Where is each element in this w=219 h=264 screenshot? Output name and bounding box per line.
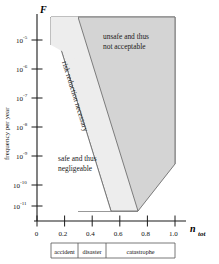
unsafe-zone-label-line1: unsafe and thus [103,32,149,41]
x-tick-label-0-8: 0.8 [141,230,150,238]
unsafe-zone-label-line2: not acceptable [103,42,146,51]
svg-text:10-10: 10-10 [13,180,27,190]
x-tick-label-0-2: 0.2 [59,230,68,238]
y-tick-label-1: 10-5 [16,35,28,45]
category-label-disaster: disaster [83,248,102,255]
y-tick-label-7: 10-11 [13,201,27,211]
y-axis-symbol: F [39,4,47,15]
risk-acceptance-chart: 10-5 10-6 10-7 10-8 10-9 10-10 10-11 fre… [0,0,219,264]
svg-text:10-8: 10-8 [16,122,28,132]
svg-text:10-9: 10-9 [16,151,28,161]
y-tick-label-4: 10-8 [16,122,28,132]
y-tick-label-2: 10-6 [16,64,28,74]
x-tick-label-0: 0 [35,230,39,238]
category-label-catastrophe: catastrophe [126,248,154,255]
svg-text:10-11: 10-11 [13,201,27,211]
y-axis-title: frequency per year [3,107,11,160]
category-label-accident: accident [54,248,75,255]
y-tick-label-3: 10-7 [16,93,28,103]
y-tick-label-6: 10-10 [13,180,27,190]
safe-zone-label-line2: negligeable [58,164,93,173]
safe-zone-label-line1: safe and thus [58,154,97,163]
svg-text:10-6: 10-6 [16,64,28,74]
y-tick-label-5: 10-9 [16,151,28,161]
svg-text:10-7: 10-7 [16,93,28,103]
x-tick-label-1-0: 1.0 [169,230,178,238]
chart-svg: 10-5 10-6 10-7 10-8 10-9 10-10 10-11 fre… [0,0,219,264]
x-tick-label-0-4: 0.4 [86,230,95,238]
x-axis-symbol-subscript: tot [198,230,206,238]
x-tick-label-0-6: 0.6 [114,230,123,238]
svg-text:10-5: 10-5 [16,35,28,45]
x-axis-symbol: n [190,223,196,234]
